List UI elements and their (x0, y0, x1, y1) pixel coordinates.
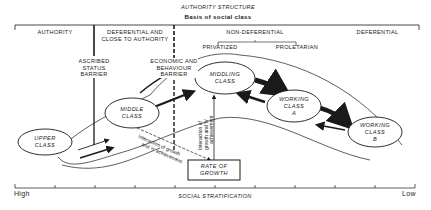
growth-line2: GROWTH (188, 170, 240, 177)
ascribed-status-barrier-label: ASCRIBED STATUS BARRIER (74, 58, 114, 78)
diagram-subtitle: Basis of social class (178, 14, 258, 21)
axis-title: SOCIAL STRATIFICATION (170, 193, 260, 200)
working-b-line2: CLASS (355, 129, 395, 136)
upper-line1: UPPER (25, 135, 65, 142)
diagram-title: AUTHORITY STRUCTURE (178, 4, 258, 11)
upper-return-curve (62, 148, 160, 168)
segment-non-deferential: NON-DEFERENTIAL (225, 29, 285, 36)
middle-line1: MIDDLE (112, 106, 152, 113)
segment-deferential-close-line2: CLOSE TO AUTHORITY (100, 36, 170, 43)
economic-line3: BARRIER (150, 71, 198, 78)
segment-privatized: PRIVATIZED (200, 44, 240, 51)
segment-deferential: DEFERENTIAL (350, 29, 405, 36)
middling-class-label: MIDDLING CLASS (203, 71, 247, 85)
segment-deferential-close: DEFERENTIAL AND CLOSE TO AUTHORITY (100, 29, 170, 42)
working-b-line1: WORKING (355, 122, 395, 129)
middle-class-label: MIDDLE CLASS (112, 106, 152, 120)
middle-line2: CLASS (112, 113, 152, 120)
working-a-line3: A (274, 110, 314, 117)
ascribed-line3: BARRIER (74, 71, 114, 78)
ascribed-line1: ASCRIBED (74, 58, 114, 65)
working-class-b-label: WORKING CLASS B (355, 122, 395, 143)
axis-high-label: High (14, 191, 30, 198)
growth-line1: RATE OF (188, 163, 240, 170)
economic-barrier-label: ECONOMIC AND BEHAVIOUR BARRIER (150, 58, 198, 78)
working-a-line1: WORKING (274, 96, 314, 103)
vert-line3: achievement (209, 116, 215, 150)
segment-deferential-close-line1: DEFERENTIAL AND (100, 29, 170, 36)
middling-line1: MIDDLING (203, 71, 247, 78)
upper-line2: CLASS (25, 142, 65, 149)
working-b-line3: B (355, 136, 395, 143)
working-class-a-label: WORKING CLASS A (274, 96, 314, 117)
segment-authority: AUTHORITY (30, 29, 80, 36)
upper-class-label: UPPER CLASS (25, 135, 65, 149)
segment-proletarian: PROLETARIAN (274, 44, 320, 51)
working-a-line2: CLASS (274, 103, 314, 110)
rate-of-growth-label: RATE OF GROWTH (188, 163, 240, 177)
economic-line1: ECONOMIC AND (150, 58, 198, 65)
vertical-interaction-annotation: Interaction of growth and 'n' achievemen… (198, 116, 215, 150)
axis-low-label: Low (402, 191, 416, 198)
middling-line2: CLASS (203, 78, 247, 85)
social-stratification-axis (15, 184, 415, 188)
